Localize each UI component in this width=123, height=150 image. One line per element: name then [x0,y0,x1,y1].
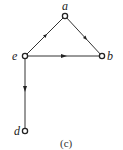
node-label-a: a [62,0,68,12]
arrow-e-d-icon [23,86,27,92]
arrow-e-b-icon [61,54,67,58]
node-a [62,13,67,18]
edge-a-b [65,16,102,56]
node-label-e: e [12,50,17,62]
node-d [22,128,27,133]
node-b [99,53,104,58]
node-label-b: b [107,50,113,62]
node-label-d: d [14,125,20,137]
figure-caption: (c) [60,138,72,149]
node-e [22,53,27,58]
